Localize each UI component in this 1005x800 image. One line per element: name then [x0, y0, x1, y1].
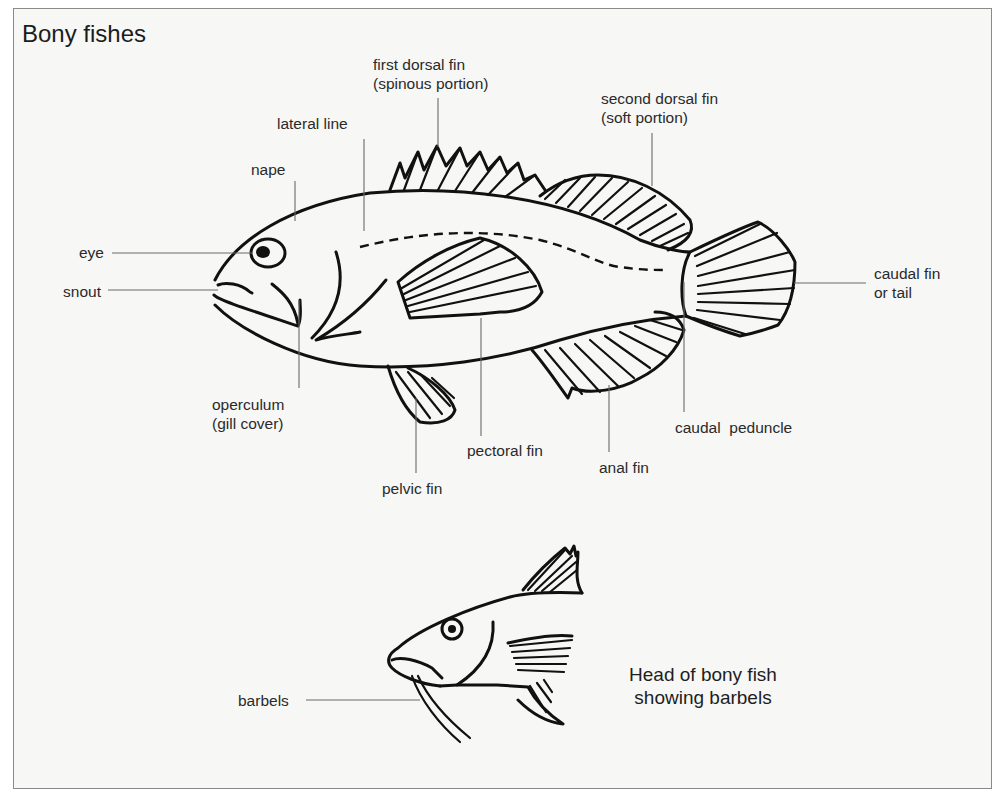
label-snout: snout: [40, 282, 101, 301]
label-operculum: operculum (gill cover): [212, 395, 284, 433]
anal-fin-shape: [532, 312, 684, 398]
pelvic-fin-shape: [388, 366, 455, 423]
pectoral-fin-shape: [398, 238, 542, 318]
label-nape: nape: [251, 160, 285, 179]
label-eye: eye: [62, 243, 104, 262]
label-lateral-line: lateral line: [277, 114, 348, 133]
fish-illustration: [0, 0, 1005, 800]
label-barbels: barbels: [238, 691, 289, 710]
label-anal-fin: anal fin: [599, 458, 649, 477]
label-caudal-peduncle: caudal peduncle: [675, 418, 792, 437]
body-outline: [215, 190, 690, 366]
head-fish-caption: Head of bony fish showing barbels: [603, 663, 803, 709]
caudal-fin-shape: [686, 222, 795, 336]
label-pelvic-fin: pelvic fin: [382, 479, 442, 498]
second-dorsal-fin-shape: [540, 175, 692, 250]
label-pectoral-fin: pectoral fin: [467, 441, 543, 460]
label-second-dorsal-fin: second dorsal fin (soft portion): [601, 89, 718, 127]
label-caudal-fin: caudal fin or tail: [874, 264, 940, 302]
label-first-dorsal-fin: first dorsal fin (spinous portion): [373, 55, 488, 93]
main-fish-drawing: [214, 146, 795, 423]
head-fish-drawing: [389, 546, 582, 742]
